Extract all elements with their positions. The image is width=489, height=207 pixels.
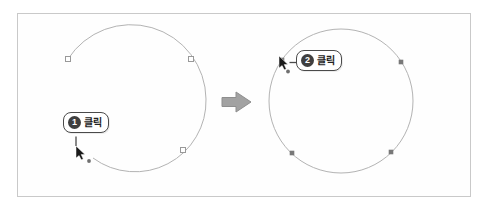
anchor-point-hollow (189, 57, 194, 62)
step-number-badge: 1 (68, 116, 81, 129)
anchor-point-selected (389, 150, 394, 155)
callout-label: 클릭 (84, 118, 101, 128)
transition-arrow-icon (222, 92, 251, 112)
diagram-artwork (0, 0, 489, 207)
callout-step-1: 1 클릭 (63, 112, 109, 133)
cursor-arrow-icon (76, 146, 85, 160)
step-number-badge: 2 (301, 54, 314, 67)
figure-canvas: 1 클릭 2 클릭 (0, 0, 489, 207)
anchor-point-selected (399, 60, 404, 65)
anchor-point-hollow (181, 148, 186, 153)
cursor-modifier-dot (87, 159, 91, 163)
anchor-point-hollow (66, 57, 71, 62)
anchor-point-selected (290, 151, 295, 156)
callout-label: 클릭 (317, 56, 334, 66)
cursor-modifier-dot (286, 70, 290, 74)
callout-step-2: 2 클릭 (296, 50, 342, 71)
